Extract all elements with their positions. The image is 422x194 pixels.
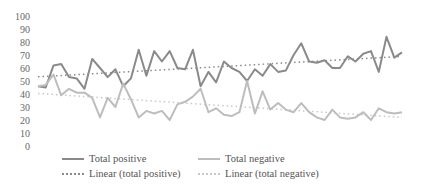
y-tick-label: 0 bbox=[25, 141, 30, 152]
legend-item-linear-positive: Linear (total positive) bbox=[62, 168, 181, 179]
legend-label: Linear (total positive) bbox=[89, 168, 181, 179]
y-tick-label: 10 bbox=[20, 128, 30, 139]
legend-swatch-dotted-light bbox=[198, 173, 220, 175]
y-tick-label: 70 bbox=[20, 50, 30, 61]
y-tick-label: 50 bbox=[20, 76, 30, 87]
data-lines bbox=[38, 37, 402, 120]
series-line bbox=[38, 75, 402, 121]
series-line bbox=[38, 37, 402, 89]
y-axis-labels: 1009080706050403020100 bbox=[15, 11, 30, 152]
y-tick-label: 20 bbox=[20, 115, 30, 126]
legend-label: Linear (total negative) bbox=[225, 168, 319, 179]
legend-item-linear-negative: Linear (total negative) bbox=[198, 168, 319, 179]
legend-label: Total positive bbox=[89, 153, 146, 164]
y-tick-label: 60 bbox=[20, 63, 30, 74]
legend-item-total-positive: Total positive bbox=[62, 153, 146, 164]
y-tick-label: 80 bbox=[20, 37, 30, 48]
legend-item-total-negative: Total negative bbox=[198, 153, 285, 164]
legend-swatch-dotted-dark bbox=[62, 173, 84, 175]
y-tick-label: 100 bbox=[15, 11, 30, 22]
legend-swatch-solid-dark bbox=[62, 158, 84, 160]
y-tick-label: 90 bbox=[20, 24, 30, 35]
y-tick-label: 40 bbox=[20, 89, 30, 100]
trendlines bbox=[38, 56, 402, 117]
legend-swatch-solid-light bbox=[198, 158, 220, 160]
legend-label: Total negative bbox=[225, 153, 285, 164]
y-tick-label: 30 bbox=[20, 102, 30, 113]
line-chart: 1009080706050403020100 bbox=[0, 0, 422, 194]
